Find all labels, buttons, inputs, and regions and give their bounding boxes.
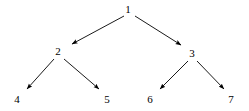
tree-node-3: 3 <box>189 48 195 59</box>
edge-2-to-5 <box>64 59 99 89</box>
binary-tree-figure: 1 2 3 4 5 6 7 <box>0 0 249 111</box>
edge-1-to-3 <box>135 16 181 45</box>
tree-node-2: 2 <box>55 46 61 57</box>
tree-edge-layer <box>0 0 249 111</box>
edge-3-to-7 <box>197 61 224 89</box>
edge-3-to-6 <box>160 61 188 89</box>
tree-node-1: 1 <box>125 4 131 15</box>
tree-node-5: 5 <box>104 94 110 105</box>
tree-node-7: 7 <box>228 94 234 105</box>
edge-1-to-2 <box>72 16 124 44</box>
tree-node-4: 4 <box>14 94 20 105</box>
tree-node-6: 6 <box>147 94 153 105</box>
edge-2-to-4 <box>27 59 54 89</box>
